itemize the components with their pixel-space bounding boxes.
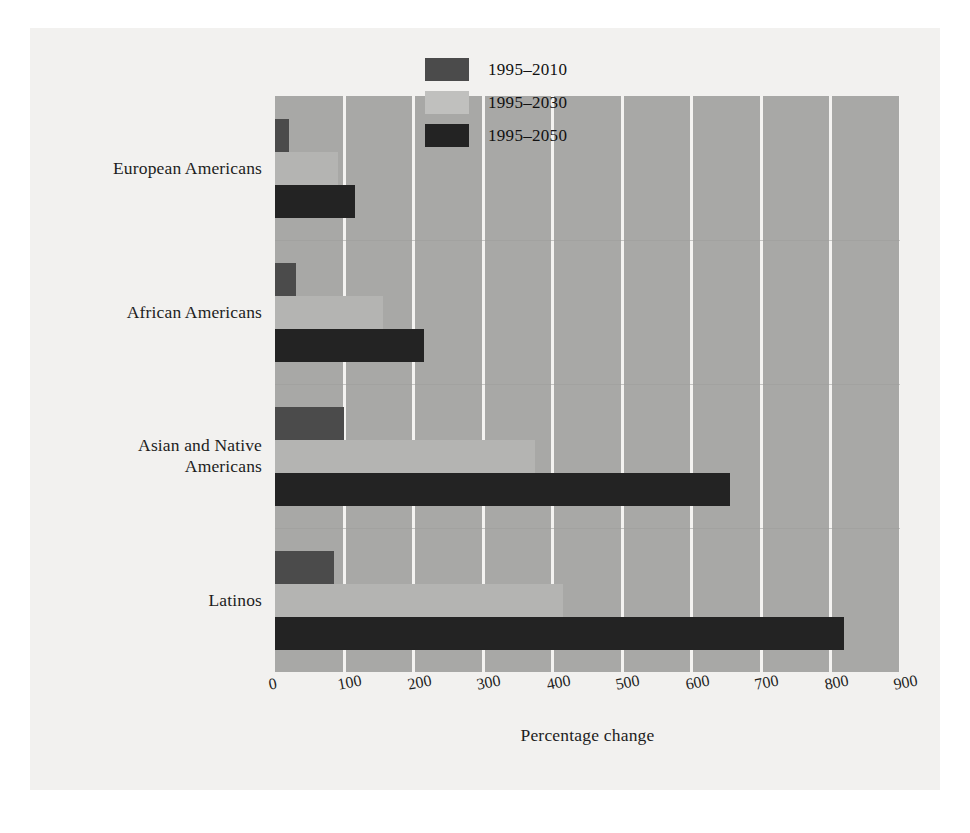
chart-legend: 1995–2010 1995–2030 1995–2050 [425,53,640,152]
band-separator [275,528,900,529]
legend-swatch-1995-2010 [425,58,469,81]
bar [275,296,383,329]
legend-item[interactable]: 1995–2030 [425,86,640,119]
plot-area [275,96,900,672]
x-tick-label-900: 900 [892,671,919,693]
figure-page: European AmericansAfrican AmericansAsian… [30,28,940,790]
bar [275,473,730,506]
x-tick-label-0: 0 [267,674,278,693]
category-label-line: European Americans [42,158,262,179]
x-tick-label-300: 300 [475,671,502,693]
bar [275,329,424,362]
bar [275,119,289,152]
bar [275,263,296,296]
category-label-3: Latinos [42,590,262,611]
x-tick-label-700: 700 [753,671,780,693]
bar [275,584,563,617]
x-tick-label-500: 500 [614,671,641,693]
x-axis-tick-labels: 0100200300400500600700800900 [275,676,915,716]
x-tick-label-400: 400 [545,671,572,693]
bar [275,551,334,584]
bar [275,152,338,185]
bar [275,617,844,650]
bar [275,185,355,218]
legend-swatch-1995-2050 [425,124,469,147]
category-label-2: Asian and NativeAmericans [42,435,262,476]
x-tick-label-100: 100 [336,671,363,693]
legend-label-1995-2030: 1995–2030 [488,93,567,113]
x-tick-label-200: 200 [406,671,433,693]
band-separator [275,240,900,241]
legend-swatch-1995-2030 [425,91,469,114]
category-label-line: Americans [42,456,262,477]
x-axis-title: Percentage change [275,725,900,746]
bar-chart-figure: European AmericansAfrican AmericansAsian… [30,28,940,790]
legend-label-1995-2050: 1995–2050 [488,126,567,146]
legend-label-1995-2010: 1995–2010 [488,60,567,80]
x-tick-label-800: 800 [823,671,850,693]
category-label-1: African Americans [42,302,262,323]
category-label-line: African Americans [42,302,262,323]
band-separator [275,384,900,385]
category-label-line: Latinos [42,590,262,611]
bar [275,440,535,473]
category-label-0: European Americans [42,158,262,179]
category-label-line: Asian and Native [42,435,262,456]
legend-item[interactable]: 1995–2050 [425,119,640,152]
legend-item[interactable]: 1995–2010 [425,53,640,86]
x-tick-label-600: 600 [684,671,711,693]
bar [275,407,344,440]
